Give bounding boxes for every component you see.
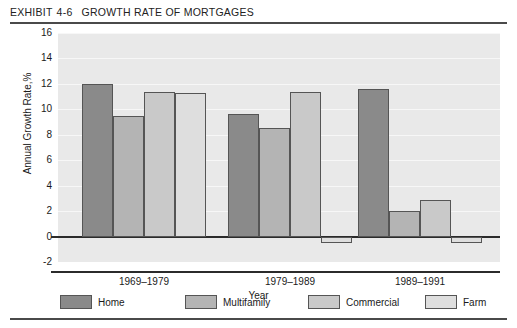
x-axis-line [51,271,500,273]
exhibit-header: EXHIBIT4-6GROWTH RATE OF MORTGAGES [0,0,517,24]
bar-home-2 [228,114,259,236]
bar-home-1 [82,84,113,237]
legend-label-home: Home [98,297,125,308]
bar-farm-3 [451,237,482,243]
y-axis-tick-label: 12 [6,79,52,89]
y-axis-tick-label: 14 [6,53,52,63]
bar-farm-1 [175,93,206,237]
y-axis-tick-label: 2 [6,206,52,216]
legend-item-home[interactable]: Home [60,294,125,310]
legend-item-multifamily[interactable]: Multifamily [185,294,270,310]
bar-multifamily-3 [389,211,420,236]
gridline [58,109,500,110]
x-axis-group-label: 1969–1979 [68,276,220,287]
legend-item-farm[interactable]: Farm [425,294,486,310]
y-axis-tick-label: 8 [6,130,52,140]
exhibit-number: 4-6 [57,6,73,18]
y-axis-ticks: 1614121086420-2 [0,33,52,262]
bar-commercial-2 [290,92,321,237]
legend-swatch-farm [425,295,457,309]
gridline [58,84,500,85]
gridline [58,33,500,34]
y-axis-tick-label: 6 [6,155,52,165]
footer-divider [10,318,507,320]
legend-swatch-home [60,295,92,309]
legend-label-multifamily: Multifamily [223,297,270,308]
bar-chart: Annual Growth Rate,% 1614121086420-2 Yea… [0,24,517,284]
y-axis-tick-label: 4 [6,181,52,191]
bar-home-3 [358,89,389,237]
bar-multifamily-2 [259,128,290,236]
bar-multifamily-1 [113,116,144,237]
bar-farm-2 [321,237,352,243]
gridline [58,58,500,59]
exhibit-title-text: GROWTH RATE OF MORTGAGES [82,6,254,18]
y-axis-tick-label: -2 [6,257,52,267]
y-axis-tick-label: 10 [6,104,52,114]
y-axis-tick-label: 16 [6,28,52,38]
exhibit-title: EXHIBIT4-6GROWTH RATE OF MORTGAGES [10,6,254,18]
legend-label-commercial: Commercial [346,297,399,308]
bar-commercial-1 [144,92,175,237]
legend-swatch-multifamily [185,295,217,309]
chart-legend: HomeMultifamilyCommercialFarm [0,294,517,314]
legend-swatch-commercial [308,295,340,309]
y-axis-tick-label: 0 [6,232,52,242]
legend-item-commercial[interactable]: Commercial [308,294,399,310]
exhibit-label: EXHIBIT [10,6,53,18]
x-axis-group-label: 1989–1991 [344,276,496,287]
plot-area [58,33,500,262]
bar-commercial-3 [420,200,451,237]
legend-label-farm: Farm [463,297,486,308]
